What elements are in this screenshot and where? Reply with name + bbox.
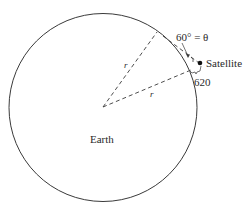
- angle-label: 60° = θ: [176, 31, 208, 43]
- altitude-label: 620: [194, 76, 211, 88]
- satellite-label: Satellite: [206, 57, 242, 69]
- earth-satellite-diagram: 60° = θ Satellite 620 r r Earth: [0, 0, 250, 209]
- radius-label-upper: r: [124, 60, 128, 70]
- satellite-icon: [198, 61, 203, 66]
- angle-arrow-icon: [186, 54, 190, 58]
- altitude-bracket: [190, 66, 201, 74]
- earth-label: Earth: [90, 133, 114, 145]
- earth-circle: [9, 14, 197, 202]
- radius-label-lower: r: [150, 89, 154, 99]
- angle-leader-line: [182, 43, 188, 56]
